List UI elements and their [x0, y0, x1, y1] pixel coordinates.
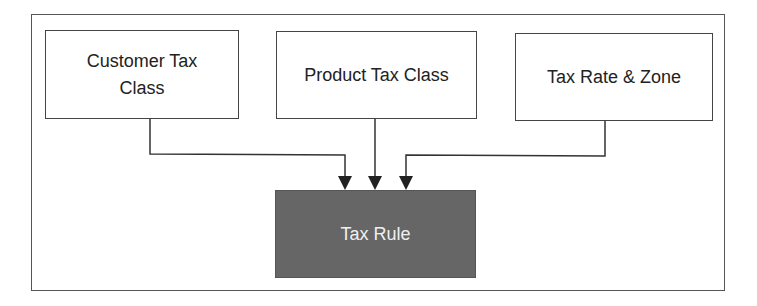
edge-customer-to-rule	[150, 119, 345, 178]
arrowhead-icon	[399, 176, 413, 190]
connector-lines	[0, 0, 757, 306]
edge-zone-to-rule	[406, 121, 605, 178]
arrowhead-icon	[368, 176, 382, 190]
arrowhead-icon	[338, 176, 352, 190]
